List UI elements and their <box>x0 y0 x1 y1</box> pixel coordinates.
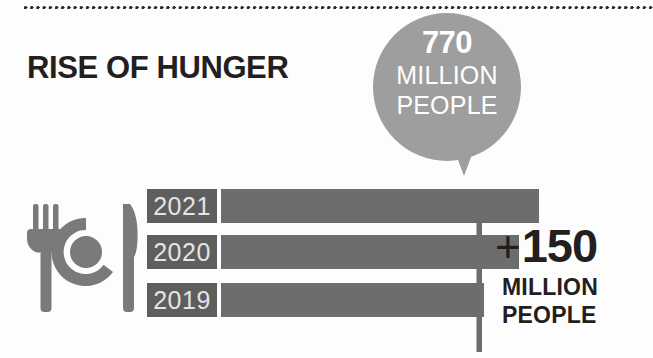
delta-noun: PEOPLE <box>502 301 598 329</box>
plus-sign-icon: + <box>495 225 521 269</box>
bar-label-2019: 2019 <box>147 283 217 317</box>
callout-bubble <box>373 13 521 161</box>
delta-unit: MILLION <box>502 273 598 301</box>
bar-label-2021: 2021 <box>147 189 217 223</box>
page-title: RISE OF HUNGER <box>27 50 288 86</box>
dotted-divider <box>24 6 653 10</box>
up-arrow-icon <box>462 196 498 352</box>
bar-2019 <box>221 283 484 317</box>
infographic-canvas: RISE OF HUNGER 770 MILLION PEOPLE <box>0 0 653 358</box>
callout-bubble-tail <box>455 152 473 176</box>
fork-plate-knife-icon <box>26 196 146 316</box>
delta-callout: + 150 MILLION PEOPLE <box>495 222 598 329</box>
delta-headline: + 150 <box>495 222 598 269</box>
table-row: 2019 <box>147 283 484 317</box>
bar-label-2020: 2020 <box>147 235 217 269</box>
delta-value: 150 <box>522 222 597 269</box>
